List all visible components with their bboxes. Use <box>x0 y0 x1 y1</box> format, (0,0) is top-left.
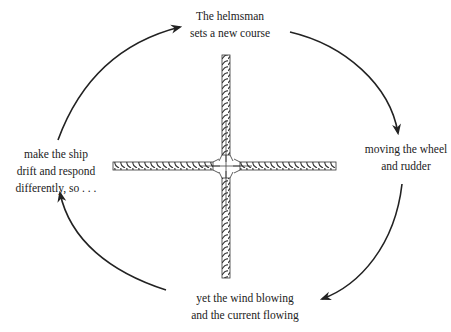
node-top-line-2: sets a new course <box>175 25 285 42</box>
node-left-line-1: make the ship <box>2 146 110 163</box>
arrow-bottom-to-left <box>60 193 166 290</box>
rope-top <box>222 55 230 155</box>
node-right-line-1: moving the wheel <box>360 141 451 158</box>
arrow-top-to-right <box>290 32 398 133</box>
node-left: make the ship drift and respond differen… <box>2 146 110 197</box>
node-top-line-1: The helmsman <box>175 8 285 25</box>
node-left-line-2: drift and respond <box>2 163 110 180</box>
node-top: The helmsman sets a new course <box>175 8 285 42</box>
rope-bottom <box>222 178 230 278</box>
node-right-line-2: and rudder <box>360 158 451 175</box>
arrow-left-to-top <box>58 27 180 140</box>
rope-left <box>113 162 213 170</box>
node-bottom: yet the wind blowing and the current flo… <box>180 290 310 324</box>
node-bottom-line-1: yet the wind blowing <box>180 290 310 307</box>
ropes-illustration <box>113 55 336 278</box>
node-bottom-line-2: and the current flowing <box>180 307 310 324</box>
arrow-right-to-bottom <box>322 184 402 299</box>
rope-right <box>240 162 336 170</box>
node-left-line-3: differently, so . . . <box>2 180 110 197</box>
node-right: moving the wheel and rudder <box>360 141 451 175</box>
